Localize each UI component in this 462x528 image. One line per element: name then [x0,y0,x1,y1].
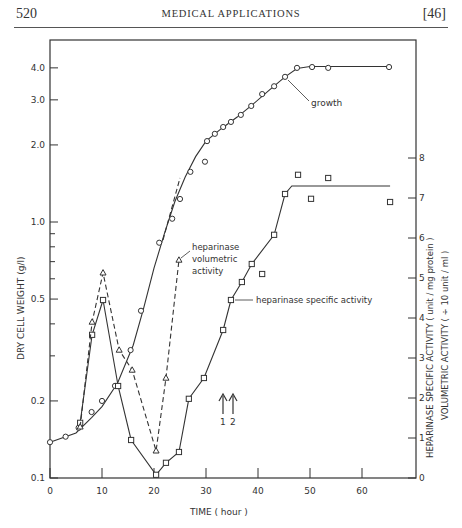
growth-marker [157,240,162,245]
specific-activity-marker [228,297,233,302]
growth-marker [326,65,331,70]
volumetric-activity-marker [129,367,135,372]
specific-activity-line [80,186,390,475]
vol-label-2: volumetric [192,254,238,264]
volumetric-activity-marker [89,319,95,324]
arrow-label-1: 1 [220,417,226,427]
x-tick-label: 30 [200,486,212,496]
specific-activity-marker [282,191,287,196]
growth-marker [202,159,207,164]
x-tick-label: 40 [252,486,264,496]
growth-marker [188,169,193,174]
y-right-tick-label: 0 [419,473,425,483]
growth-marker [204,139,209,144]
y-right-tick-label: 5 [419,273,425,283]
y-right-tick-label: 1 [419,433,425,443]
growth-marker [386,64,391,69]
growth-marker [212,131,217,136]
y-right-tick-label: 3 [419,353,425,363]
y-left-tick-label: 3.0 [31,95,46,105]
growth-marker [272,84,277,89]
growth-marker [228,119,233,124]
vol-leader [181,251,190,258]
specific-activity-marker [221,327,226,332]
volumetric-extrapolation-line [163,178,180,240]
x-tick-label: 10 [96,486,108,496]
vol-label-1: heparinase [192,242,239,252]
growth-label: growth [311,98,342,108]
specific-activity-marker [153,472,158,477]
specific-activity-marker [176,449,181,454]
growth-marker [260,91,265,96]
growth-marker [63,434,68,439]
growth-marker [221,124,226,129]
y-left-tick-label: 0.5 [31,294,45,304]
volumetric-activity-marker [116,347,122,352]
arrow-icon-2 [229,394,237,414]
specific-activity-marker [249,261,254,266]
y-left-tick-label: 2.0 [31,140,46,150]
growth-marker [238,112,243,117]
spec-label: heparinase specific activity [256,295,372,305]
y-right-label-1: HEPARINASE SPECIFIC ACTIVITY ( unit / mg… [425,237,435,458]
growth-marker [89,409,94,414]
specific-activity-marker [387,199,392,204]
growth-marker [282,74,287,79]
y-left-tick-label: 1.0 [31,217,46,227]
specific-activity-marker [201,375,206,380]
x-tick-label: 0 [47,486,53,496]
volumetric-activity-marker [153,448,159,453]
growth-marker [138,308,143,313]
arrow-label-2: 2 [230,417,236,427]
x-tick-label: 60 [356,486,368,496]
y-left-tick-label: 4.0 [31,63,46,73]
growth-heparinase-chart: 01020304050600.10.20.51.02.03.04.0012345… [0,0,462,528]
specific-activity-marker [100,297,105,302]
growth-marker [128,347,133,352]
x-tick-label: 20 [148,486,160,496]
specific-activity-marker [129,437,134,442]
volumetric-activity-marker [100,270,106,275]
growth-leader [288,80,309,101]
y-left-tick-label: 0.2 [31,396,45,406]
growth-marker [99,398,104,403]
specific-activity-marker [308,196,313,201]
specific-activity-marker [295,172,300,177]
specific-activity-marker [186,396,191,401]
specific-activity-marker [326,175,331,180]
x-axis-label: TIME ( hour ) [189,507,248,517]
specific-activity-marker [239,279,244,284]
growth-marker [294,65,299,70]
y-left-label: DRY CELL WEIGHT (g/l) [16,257,26,360]
growth-marker [249,103,254,108]
specific-activity-marker [116,383,121,388]
arrow-icon-1 [219,394,227,414]
y-right-tick-label: 2 [419,393,425,403]
specific-activity-marker [260,271,265,276]
chart-axes: 01020304050600.10.20.51.02.03.04.0012345… [31,40,425,496]
y-right-tick-label: 7 [419,193,425,203]
growth-marker [47,440,52,445]
growth-marker [170,216,175,221]
specific-activity-marker [272,232,277,237]
x-tick-label: 50 [304,486,316,496]
vol-label-3: activity [192,266,223,276]
growth-marker [177,196,182,201]
y-left-tick-label: 0.1 [31,473,45,483]
volumetric-activity-marker [163,375,169,380]
y-right-label-2: VOLUMETRIC ACTIVITY ( ÷ 10 unit / ml ) [440,251,450,420]
specific-activity-marker [163,460,168,465]
growth-marker [309,64,314,69]
y-right-tick-label: 8 [419,153,425,163]
